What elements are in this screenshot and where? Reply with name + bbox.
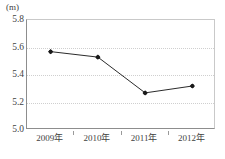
series-line [51, 52, 193, 93]
line-chart: (m) 5.85.65.45.25.0 2009年2010年2011年2012年 [0, 0, 225, 159]
x-axis-tick-label: 2009年 [36, 133, 63, 144]
x-axis-tick-label: 2011年 [131, 133, 158, 144]
y-axis-tick-labels: 5.85.65.45.25.0 [0, 19, 24, 129]
x-axis-tick-label: 2010年 [83, 133, 110, 144]
y-axis-tick-label: 5.0 [0, 124, 24, 134]
x-axis-tick-mark [168, 131, 169, 135]
y-axis-unit-label: (m) [6, 2, 19, 12]
data-point-marker [49, 50, 53, 54]
y-axis-tick-label: 5.6 [0, 42, 24, 52]
data-point-marker [190, 84, 194, 88]
plot-area [26, 19, 215, 129]
y-axis-tick-label: 5.2 [0, 97, 24, 107]
y-axis-tick-label: 5.8 [0, 14, 24, 24]
x-axis-tick-mark [73, 131, 74, 135]
y-axis-tick-label: 5.4 [0, 69, 24, 79]
data-point-marker [143, 91, 147, 95]
data-point-marker [96, 55, 100, 59]
data-series-layer [27, 20, 216, 130]
x-axis-tick-label: 2012年 [178, 133, 205, 144]
x-axis-tick-mark [121, 131, 122, 135]
x-axis-tick-labels: 2009年2010年2011年2012年 [26, 131, 215, 151]
